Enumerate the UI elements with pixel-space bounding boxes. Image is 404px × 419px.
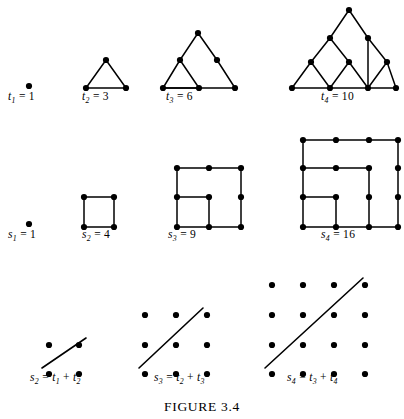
dot xyxy=(331,282,337,288)
edge-segment xyxy=(311,38,330,62)
dot xyxy=(362,342,368,348)
dot xyxy=(174,194,180,200)
label-s2: s2 = 4 xyxy=(82,228,110,240)
dot xyxy=(366,137,372,143)
dot xyxy=(365,85,371,91)
dot xyxy=(289,85,295,91)
figure-item-sum4 xyxy=(265,278,368,377)
figure-item-s1 xyxy=(26,221,32,227)
dot xyxy=(196,85,202,91)
edge-segment xyxy=(349,10,368,38)
dot xyxy=(46,342,52,348)
dot xyxy=(173,342,179,348)
edge-segment xyxy=(387,62,396,88)
figure-item-s3 xyxy=(174,165,244,230)
dot xyxy=(362,312,368,318)
edge-segment xyxy=(311,62,330,88)
figure-3-4: t1 = 1t2 = 3t3 = 6t4 = 10s1 = 1s2 = 4s3 … xyxy=(0,0,404,419)
dot xyxy=(204,312,210,318)
figure-item-s2 xyxy=(81,194,117,230)
dot xyxy=(362,371,368,377)
dot xyxy=(206,165,212,171)
dot xyxy=(238,165,244,171)
dot xyxy=(300,194,306,200)
edge-segment xyxy=(330,10,349,38)
edge-segment xyxy=(330,62,349,88)
dot xyxy=(238,194,244,200)
label-t1: t1 = 1 xyxy=(8,90,35,102)
edge-segment xyxy=(180,60,199,88)
dot xyxy=(111,224,117,230)
edge-segment xyxy=(349,62,368,88)
dot xyxy=(238,224,244,230)
dot xyxy=(362,282,368,288)
figure-caption: FIGURE 3.4 xyxy=(0,399,404,415)
dot xyxy=(269,371,275,377)
label-sum2: s2 = t1 + t2 xyxy=(30,371,81,383)
dot xyxy=(333,194,339,200)
dot xyxy=(173,312,179,318)
label-t4: t4 = 10 xyxy=(321,90,354,102)
dot xyxy=(204,342,210,348)
dot xyxy=(384,59,390,65)
dot xyxy=(142,342,148,348)
dot xyxy=(308,59,314,65)
label-t2: t2 = 3 xyxy=(82,90,109,102)
dot xyxy=(142,371,148,377)
dot xyxy=(123,85,129,91)
figure-item-t3 xyxy=(160,30,238,91)
dot xyxy=(300,312,306,318)
edge-segment xyxy=(198,33,217,60)
figure-item-t1 xyxy=(26,83,32,89)
dot xyxy=(206,224,212,230)
diagonal-line xyxy=(265,278,363,368)
dot xyxy=(331,342,337,348)
dot xyxy=(327,35,333,41)
figure-item-s4 xyxy=(300,137,401,230)
label-sum3: s3 = t2 + t3 xyxy=(154,371,205,383)
dot xyxy=(103,57,109,63)
edge-segment xyxy=(217,60,235,88)
dot xyxy=(300,137,306,143)
dot xyxy=(81,194,87,200)
dot xyxy=(174,165,180,171)
label-t3: t3 = 6 xyxy=(166,90,193,102)
dot xyxy=(395,224,401,230)
dot xyxy=(300,165,306,171)
dot xyxy=(177,57,183,63)
edge-segment xyxy=(330,38,349,62)
edge-segment xyxy=(368,62,387,88)
dot xyxy=(366,224,372,230)
dot xyxy=(395,137,401,143)
dot xyxy=(195,30,201,36)
label-s1: s1 = 1 xyxy=(8,228,36,240)
dot xyxy=(393,85,399,91)
dot xyxy=(206,194,212,200)
dot xyxy=(269,342,275,348)
dot xyxy=(232,85,238,91)
dot xyxy=(366,194,372,200)
figure-item-t2 xyxy=(83,57,129,91)
dot xyxy=(111,194,117,200)
dot xyxy=(346,59,352,65)
edge-segment xyxy=(368,38,387,62)
figure-drawing-layer xyxy=(0,0,404,419)
dot xyxy=(366,165,372,171)
dot xyxy=(26,221,32,227)
dot xyxy=(76,342,82,348)
dot xyxy=(395,165,401,171)
dot xyxy=(26,83,32,89)
dot xyxy=(333,137,339,143)
figure-item-t4 xyxy=(289,7,399,91)
edge-segment xyxy=(86,60,106,88)
dot xyxy=(300,282,306,288)
dot xyxy=(269,282,275,288)
dot xyxy=(365,35,371,41)
dot xyxy=(142,312,148,318)
dot xyxy=(300,342,306,348)
edge-segment xyxy=(106,60,126,88)
label-s3: s3 = 9 xyxy=(168,228,196,240)
dot xyxy=(269,312,275,318)
label-sum4: s4 = t3 + t4 xyxy=(287,371,338,383)
dot xyxy=(346,7,352,13)
